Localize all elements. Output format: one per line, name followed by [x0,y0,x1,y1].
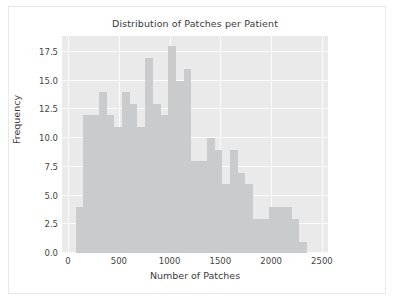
bar [215,150,223,253]
bar [153,104,161,253]
x-tick-label: 0 [65,256,70,266]
bar [292,219,300,253]
x-tick-label: 1500 [210,256,232,266]
gridline-x-0 [68,36,69,253]
y-tick-label: 0.0 [12,248,58,258]
plot-area [62,36,328,253]
y-tick-label: 2.5 [12,219,58,229]
bar [191,161,199,253]
gridline-y-6 [62,80,328,81]
bar [276,207,284,253]
y-tick-label: 17.5 [12,47,58,57]
bar [222,184,230,253]
y-axis-ticks: 0.02.55.07.510.012.515.017.5 [8,36,58,253]
bar [83,115,91,253]
bar [137,127,145,253]
bar [245,184,253,253]
bar [230,150,238,253]
y-tick-label: 10.0 [12,133,58,143]
x-axis-label: Number of Patches [62,270,328,281]
y-tick-label: 12.5 [12,104,58,114]
bar [91,115,99,253]
y-tick-label: 7.5 [12,162,58,172]
y-tick-label: 15.0 [12,76,58,86]
bar [238,173,246,253]
bar [207,138,215,253]
bar [261,219,269,253]
bar [114,127,122,253]
figure: Distribution of Patches per Patient Freq… [0,0,394,302]
chart-title: Distribution of Patches per Patient [62,18,328,29]
bar [284,207,292,253]
bar [184,69,192,253]
bar [76,207,84,253]
bar [199,161,207,253]
bar [176,81,184,253]
bar [299,242,307,253]
bar [161,115,169,253]
bar [107,115,115,253]
gridline-x-5 [322,36,323,253]
x-tick-label: 500 [111,256,127,266]
y-tick-label: 5.0 [12,191,58,201]
x-tick-label: 2000 [260,256,282,266]
bar [269,207,277,253]
gridline-y-7 [62,51,328,52]
bar [168,46,176,253]
x-tick-label: 2500 [311,256,333,266]
bar [99,92,107,253]
bar [130,104,138,253]
x-tick-label: 1000 [159,256,181,266]
x-axis-ticks: 05001000150020002500 [62,256,328,270]
bar [253,219,261,253]
bar [122,92,130,253]
bar [145,58,153,253]
